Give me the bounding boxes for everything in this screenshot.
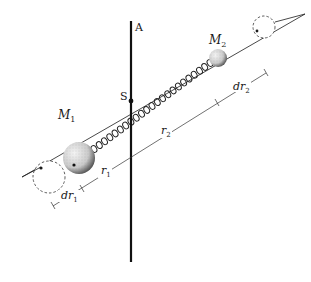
mass1 xyxy=(63,142,95,174)
mass2-displaced-outline xyxy=(253,16,275,38)
mass2-label: M2 xyxy=(208,33,226,49)
axis-label: A xyxy=(134,21,144,34)
pivot-label: S xyxy=(120,90,128,103)
spring xyxy=(90,59,214,154)
mass1-label: M1 xyxy=(57,108,75,124)
diagram-canvas: A S M1 M2 r1 r2 dr1 dr2 xyxy=(0,0,311,282)
pivot-point xyxy=(129,99,134,104)
mass2 xyxy=(209,49,227,67)
